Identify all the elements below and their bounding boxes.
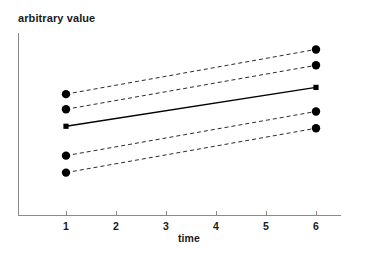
marker-circle-lower-inner-start bbox=[62, 151, 70, 159]
marker-square-mean-start bbox=[63, 124, 68, 129]
marker-circle-lower-inner-end bbox=[312, 107, 320, 115]
x-tick-label-3: 3 bbox=[156, 220, 176, 232]
x-tick-label-5: 5 bbox=[256, 220, 276, 232]
markers-group bbox=[62, 45, 320, 177]
marker-circle-lower-outer-start bbox=[62, 168, 70, 176]
series-group bbox=[66, 49, 316, 172]
marker-circle-upper-inner-end bbox=[312, 61, 320, 69]
series-line-lower-outer bbox=[66, 128, 316, 172]
x-ticks-group bbox=[67, 211, 317, 216]
x-tick-label-6: 6 bbox=[306, 220, 326, 232]
marker-circle-upper-inner-start bbox=[62, 105, 70, 113]
marker-circle-upper-outer-start bbox=[62, 90, 70, 98]
series-line-mean bbox=[66, 87, 316, 126]
marker-circle-lower-outer-end bbox=[312, 124, 320, 132]
x-tick-label-4: 4 bbox=[206, 220, 226, 232]
series-line-lower-inner bbox=[66, 111, 316, 155]
marker-circle-upper-outer-end bbox=[312, 45, 320, 53]
x-tick-label-1: 1 bbox=[56, 220, 76, 232]
x-tick-label-2: 2 bbox=[106, 220, 126, 232]
x-axis-label: time bbox=[0, 232, 378, 244]
marker-square-mean-end bbox=[313, 85, 318, 90]
chart-figure: arbitrary value 123456 time bbox=[0, 0, 378, 256]
plot-area bbox=[0, 0, 378, 256]
